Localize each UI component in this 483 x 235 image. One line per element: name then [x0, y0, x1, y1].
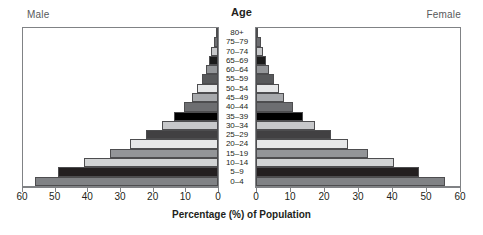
age-group-label: 30–34: [219, 121, 255, 130]
male-bar: [206, 65, 218, 74]
age-group-label: 35–39: [219, 112, 255, 121]
female-bar: [256, 167, 419, 176]
male-bar: [202, 74, 218, 83]
female-bar: [256, 65, 269, 74]
x-tick-label-male: 0: [206, 191, 230, 202]
male-bar: [184, 102, 218, 111]
male-bar: [211, 47, 218, 56]
age-group-label: 50–54: [219, 84, 255, 93]
male-bar: [35, 177, 218, 186]
age-group-label: 45–49: [219, 93, 255, 102]
x-tick-label-male: 10: [173, 191, 197, 202]
age-group-label: 60–64: [219, 65, 255, 74]
female-bar: [256, 74, 274, 83]
x-tick-label-female: 0: [244, 191, 268, 202]
male-bar: [216, 28, 218, 37]
x-tick-label-female: 40: [380, 191, 404, 202]
male-bar: [174, 112, 218, 121]
x-tick-label-male: 40: [75, 191, 99, 202]
x-tick-label-female: 10: [278, 191, 302, 202]
male-bar: [146, 130, 218, 139]
age-group-label: 65–69: [219, 56, 255, 65]
age-group-label: 70–74: [219, 47, 255, 56]
population-pyramid-chart: Male Female Age 80+75–7970–7465–6960–645…: [0, 0, 483, 235]
age-group-label: 40–44: [219, 102, 255, 111]
female-bar: [256, 84, 279, 93]
female-bar: [256, 177, 445, 186]
female-bar: [256, 47, 263, 56]
x-axis-title: Percentage (%) of Population: [0, 209, 483, 220]
male-bar: [214, 37, 218, 46]
age-axis-title: Age: [0, 6, 483, 18]
age-group-label: 75–79: [219, 37, 255, 46]
female-bar: [256, 112, 303, 121]
male-bar: [84, 158, 218, 167]
male-bar: [130, 139, 218, 148]
x-tick-label-female: 30: [346, 191, 370, 202]
x-tick-label-female: 20: [312, 191, 336, 202]
x-tick-label-female: 50: [414, 191, 438, 202]
female-bar: [256, 56, 266, 65]
age-group-label: 10–14: [219, 158, 255, 167]
female-bar: [256, 93, 284, 102]
age-group-label: 25–29: [219, 130, 255, 139]
male-bar: [192, 93, 218, 102]
female-bar: [256, 149, 368, 158]
x-tick-label-female: 60: [448, 191, 472, 202]
age-group-labels: 80+75–7970–7465–6960–6455–5950–5445–4940…: [219, 28, 255, 186]
x-tick-label-male: 30: [108, 191, 132, 202]
female-bar: [256, 139, 348, 148]
x-tick-label-male: 20: [141, 191, 165, 202]
female-bar: [256, 102, 293, 111]
female-bar: [256, 158, 394, 167]
female-bar: [256, 28, 258, 37]
age-group-label: 55–59: [219, 74, 255, 83]
x-tick-label-male: 60: [10, 191, 34, 202]
male-bar: [197, 84, 218, 93]
age-group-label: 15–19: [219, 149, 255, 158]
x-tick-label-male: 50: [43, 191, 67, 202]
male-bar: [162, 121, 218, 130]
male-bar: [110, 149, 218, 158]
female-bar: [256, 37, 261, 46]
male-bar: [209, 56, 218, 65]
age-group-label: 5–9: [219, 167, 255, 176]
female-bar: [256, 121, 315, 130]
female-bar: [256, 130, 331, 139]
age-group-label: 80+: [219, 28, 255, 37]
age-group-label: 20–24: [219, 139, 255, 148]
male-bar: [58, 167, 218, 176]
age-group-label: 0–4: [219, 177, 255, 186]
